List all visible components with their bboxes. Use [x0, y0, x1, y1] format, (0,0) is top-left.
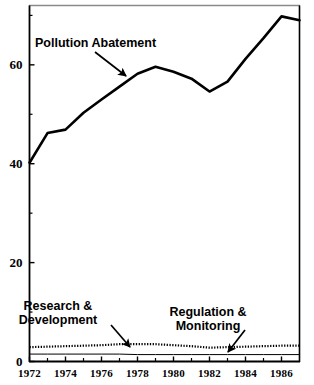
- annotation-label-regulation-monitoring: Regulation &Monitoring: [169, 305, 246, 333]
- x-axis-labels: 19721974197619781980198219841986: [18, 367, 293, 379]
- annotation-arrow-pollution-abatement: [95, 52, 126, 76]
- annotation-label-pollution-abatement: Pollution Abatement: [35, 36, 157, 50]
- y-tick-label: 40: [10, 156, 23, 171]
- y-tick-label: 20: [10, 255, 23, 270]
- x-tick-label: 1984: [234, 367, 257, 379]
- y-tick-label: 60: [10, 57, 23, 72]
- annotation-research-development: Research &Development: [19, 299, 130, 347]
- line-chart: 0204060 19721974197619781980198219841986…: [0, 0, 314, 385]
- annotation-layer: Pollution AbatementResearch &Development…: [19, 36, 247, 352]
- series-line-2: [30, 354, 300, 355]
- x-tick-label: 1978: [126, 367, 149, 379]
- x-tick-label: 1982: [198, 367, 221, 379]
- x-tick-label: 1972: [18, 367, 41, 379]
- series-line-1: [30, 344, 300, 347]
- x-tick-label: 1980: [162, 367, 185, 379]
- annotation-arrow-regulation-monitoring: [228, 330, 245, 352]
- annotation-label-research-development: Research &Development: [19, 299, 98, 327]
- annotation-pollution-abatement: Pollution Abatement: [35, 36, 157, 76]
- x-tick-label: 1974: [54, 367, 77, 379]
- x-tick-label: 1986: [270, 367, 293, 379]
- chart-container: 0204060 19721974197619781980198219841986…: [0, 0, 314, 385]
- x-tick-label: 1976: [90, 367, 113, 379]
